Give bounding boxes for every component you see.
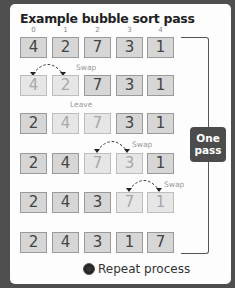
- circle-icon: [83, 263, 95, 275]
- array-cell: 1: [147, 153, 174, 174]
- array-cell: 4: [20, 75, 47, 96]
- repeat-label: Repeat process: [98, 262, 190, 276]
- swap-label: Swap: [76, 63, 96, 72]
- index-label: 0: [20, 26, 47, 34]
- array-cell: 4: [52, 153, 79, 174]
- index-label: 3: [116, 26, 143, 34]
- diagram-title: Example bubble sort pass: [20, 11, 195, 26]
- array-cell: 2: [20, 113, 47, 134]
- array-cell: 1: [147, 37, 174, 58]
- index-label: 1: [52, 26, 79, 34]
- array-cell: 7: [147, 232, 174, 253]
- diagram-card: Example bubble sort pass 0 1 2 3 4 4 2 7…: [10, 4, 231, 284]
- array-cell: 1: [116, 232, 143, 253]
- array-cell: 7: [84, 75, 111, 96]
- array-cell: 2: [20, 153, 47, 174]
- swap-arrow-icon: [126, 175, 166, 193]
- index-label: 2: [84, 26, 111, 34]
- array-cell: 3: [84, 232, 111, 253]
- array-cell: 7: [84, 113, 111, 134]
- array-cell: 7: [116, 192, 143, 213]
- array-cell: 4: [52, 113, 79, 134]
- array-cell: 4: [52, 192, 79, 213]
- array-cell: 1: [147, 113, 174, 134]
- array-cell: 3: [116, 153, 143, 174]
- repeat-process: Repeat process: [83, 262, 190, 276]
- pass-badge-line1: One: [190, 132, 226, 144]
- array-cell: 7: [84, 153, 111, 174]
- array-cell: 4: [20, 37, 47, 58]
- array-cell: 3: [84, 192, 111, 213]
- array-cell: 1: [147, 192, 174, 213]
- swap-arrow-icon: [94, 136, 134, 154]
- index-label: 4: [147, 26, 174, 34]
- array-cell: 2: [52, 75, 79, 96]
- pass-badge-line2: pass: [190, 144, 226, 156]
- array-cell: 3: [116, 75, 143, 96]
- array-cell: 4: [52, 232, 79, 253]
- array-cell: 2: [20, 232, 47, 253]
- swap-label: Swap: [132, 140, 152, 149]
- array-cell: 3: [116, 37, 143, 58]
- one-pass-badge: One pass: [190, 127, 226, 162]
- array-cell: 3: [116, 113, 143, 134]
- array-cell: 2: [52, 37, 79, 58]
- leave-label: Leave: [70, 100, 92, 109]
- array-cell: 7: [84, 37, 111, 58]
- array-cell: 1: [147, 75, 174, 96]
- array-cell: 2: [20, 192, 47, 213]
